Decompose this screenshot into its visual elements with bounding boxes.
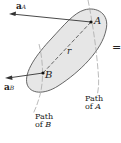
- aB-label: aB: [4, 83, 14, 92]
- point-b-label: B: [45, 70, 52, 80]
- aA-label: aA: [16, 2, 26, 11]
- rigid-body-diagram: [0, 0, 121, 143]
- path-of-b-label: Path of B: [35, 113, 53, 129]
- aA-arrowhead: [9, 12, 16, 17]
- point-a: [89, 20, 92, 23]
- equals-sign: =: [112, 42, 121, 53]
- r-label: r: [67, 47, 71, 56]
- path-of-a-label: Path of A: [85, 95, 103, 111]
- point-a-label: A: [94, 16, 101, 26]
- aB-arrowhead: [5, 76, 13, 81]
